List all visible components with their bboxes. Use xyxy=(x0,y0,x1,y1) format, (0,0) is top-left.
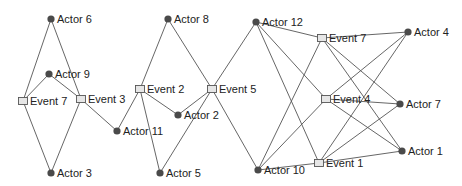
node-label: Event 7 xyxy=(329,32,366,44)
edge-event4-actor1 xyxy=(326,99,402,151)
edge-actor10-event7b xyxy=(258,38,322,170)
node-label: Actor 7 xyxy=(406,98,441,110)
node-label: Actor 6 xyxy=(57,13,92,25)
node-label: Event 4 xyxy=(333,93,370,105)
event-square-icon xyxy=(318,35,327,42)
actor-dot-icon xyxy=(156,169,163,176)
node-label: Event 2 xyxy=(147,83,184,95)
edge-actor12-event4 xyxy=(256,22,326,99)
edge-event5-actor10 xyxy=(212,89,258,170)
edge-actor6-event7a xyxy=(23,19,51,101)
node-label: Actor 9 xyxy=(55,68,90,80)
actor-dot-icon xyxy=(404,28,411,35)
node-label: Actor 2 xyxy=(184,109,219,121)
actor-dot-icon xyxy=(252,18,259,25)
node-label: Actor 11 xyxy=(123,125,163,137)
node-label: Event 5 xyxy=(219,83,256,95)
actor-dot-icon xyxy=(113,127,120,134)
edge-actor8-event5 xyxy=(168,19,212,89)
node-actor1[interactable]: Actor 1 xyxy=(398,145,442,157)
edge-event1-actor7 xyxy=(319,104,400,163)
actor-dot-icon xyxy=(254,166,261,173)
node-label: Actor 12 xyxy=(262,16,303,28)
node-label: Actor 3 xyxy=(57,167,92,179)
node-actor7[interactable]: Actor 7 xyxy=(396,98,440,110)
node-label: Event 1 xyxy=(326,157,363,169)
actor-dot-icon xyxy=(47,169,54,176)
event-square-icon xyxy=(77,96,86,103)
node-actor11[interactable]: Actor 11 xyxy=(113,125,163,137)
event-square-icon xyxy=(136,86,145,93)
node-label: Actor 10 xyxy=(264,164,305,176)
node-actor9[interactable]: Actor 9 xyxy=(45,68,89,80)
edge-event5-actor12 xyxy=(212,22,256,89)
edge-event5-actor5 xyxy=(160,89,212,173)
node-label: Event 7 xyxy=(30,95,67,107)
node-event2[interactable]: Event 2 xyxy=(136,83,185,95)
node-event4[interactable]: Event 4 xyxy=(322,93,371,105)
event-square-icon xyxy=(315,160,324,167)
edge-event3-actor3 xyxy=(51,99,81,173)
actor-dot-icon xyxy=(164,15,171,22)
edge-event2-actor8 xyxy=(140,19,168,89)
node-event3[interactable]: Event 3 xyxy=(77,93,126,105)
node-label: Actor 1 xyxy=(408,145,443,157)
node-label: Actor 8 xyxy=(174,13,209,25)
actor-dot-icon xyxy=(174,111,181,118)
node-actor6[interactable]: Actor 6 xyxy=(47,13,91,25)
actor-dot-icon xyxy=(45,70,52,77)
edge-actor12-event1 xyxy=(256,22,319,163)
node-label: Actor 5 xyxy=(166,167,201,179)
node-actor2[interactable]: Actor 2 xyxy=(174,109,218,121)
event-square-icon xyxy=(19,98,28,105)
node-label: Event 3 xyxy=(88,93,125,105)
node-actor4[interactable]: Actor 4 xyxy=(404,26,448,38)
network-diagram: Actor 6Actor 9Event 7Event 3Actor 3Actor… xyxy=(0,0,462,186)
event-square-icon xyxy=(322,96,331,103)
actor-dot-icon xyxy=(398,147,405,154)
node-label: Actor 4 xyxy=(414,26,449,38)
node-event7a[interactable]: Event 7 xyxy=(19,95,68,107)
actor-dot-icon xyxy=(396,100,403,107)
nodes-layer: Actor 6Actor 9Event 7Event 3Actor 3Actor… xyxy=(19,13,449,179)
event-square-icon xyxy=(208,86,217,93)
actor-dot-icon xyxy=(47,15,54,22)
node-actor3[interactable]: Actor 3 xyxy=(47,167,91,179)
edge-event7a-actor3 xyxy=(23,101,51,173)
